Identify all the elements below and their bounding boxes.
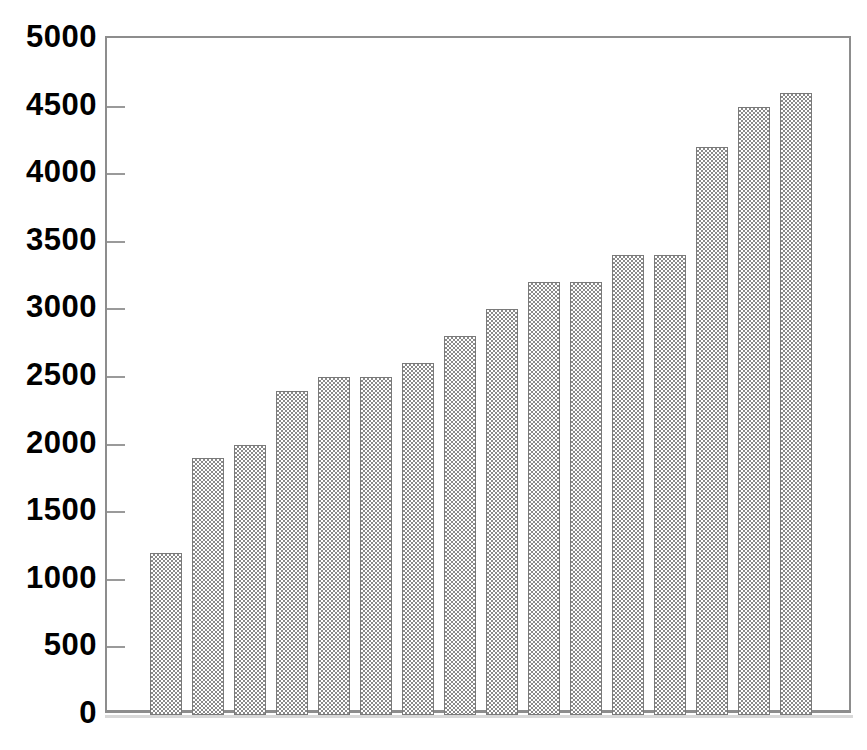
bar [738, 107, 770, 715]
bar [612, 255, 644, 715]
y-tick-label: 1500 [0, 494, 97, 525]
bar [486, 309, 518, 715]
bar [150, 553, 182, 715]
bar [444, 336, 476, 715]
bar [570, 282, 602, 715]
y-tick-label: 2000 [0, 426, 97, 457]
y-tick-label: 0 [0, 697, 97, 728]
bar [360, 377, 392, 715]
plot-area [105, 36, 851, 713]
baseline-shadow [105, 715, 853, 718]
bar [192, 458, 224, 715]
bar [276, 391, 308, 715]
bar [654, 255, 686, 715]
bars-layer [107, 38, 853, 715]
y-tick-label: 500 [0, 629, 97, 660]
y-axis-labels: 0500100015002000250030003500400045005000 [0, 0, 97, 750]
bar-chart: 0500100015002000250030003500400045005000 [0, 0, 867, 750]
bar [780, 93, 812, 715]
y-tick-label: 1000 [0, 561, 97, 592]
bar [234, 445, 266, 715]
bar [696, 147, 728, 715]
y-tick-label: 4000 [0, 156, 97, 187]
y-tick-label: 3000 [0, 291, 97, 322]
bar [528, 282, 560, 715]
bar [402, 363, 434, 715]
y-tick-label: 3500 [0, 223, 97, 254]
y-tick-label: 2500 [0, 359, 97, 390]
bar [318, 377, 350, 715]
y-tick-label: 5000 [0, 21, 97, 52]
y-tick-label: 4500 [0, 88, 97, 119]
